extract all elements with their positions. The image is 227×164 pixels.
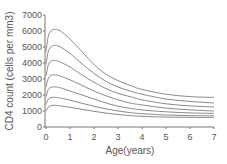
x-tick-label: 6 [187,132,192,142]
x-ticks: 01234567 [43,127,216,142]
x-tick-label: 0 [43,132,48,142]
y-tick-label: 7000 [22,10,42,20]
y-axis-title: CD4 count (cells per mm3) [4,12,15,131]
x-tick-label: 3 [115,132,120,142]
y-tick-label: 6000 [22,26,42,36]
y-tick-label: 5000 [22,42,42,52]
y-tick-label: 0 [37,122,42,132]
curves-group [46,29,214,117]
x-tick-label: 2 [91,132,96,142]
x-tick-label: 7 [211,132,216,142]
y-tick-label: 4000 [22,58,42,68]
cd4-count-chart: 01000200030004000500060007000 01234567 A… [0,0,227,164]
x-tick-label: 5 [163,132,168,142]
y-tick-label: 3000 [22,74,42,84]
y-tick-label: 1000 [22,106,42,116]
series-line-curve-1 [46,29,214,97]
series-line-curve-2 [46,45,214,103]
y-tick-label: 2000 [22,90,42,100]
x-tick-label: 1 [67,132,72,142]
x-axis-title: Age(years) [106,145,155,156]
y-ticks: 01000200030004000500060007000 [22,10,45,132]
x-tick-label: 4 [139,132,144,142]
